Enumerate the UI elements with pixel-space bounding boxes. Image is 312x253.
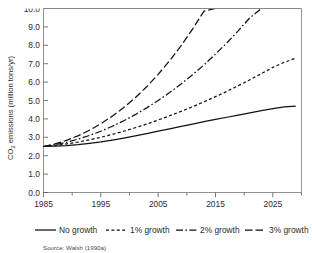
legend-label: 3% growth [269, 225, 309, 235]
y-axis-title-prefix: CO [6, 149, 15, 160]
x-axis-tick-labels: 1985 1995 2005 2015 2025 [34, 199, 282, 209]
y-tick-label: 5.0 [28, 96, 40, 106]
y-tick-label: 6.0 [28, 77, 40, 87]
y-tick-label: 1.0 [28, 169, 40, 179]
x-tick-label: 1995 [91, 199, 110, 209]
x-tick-label: 2025 [263, 199, 282, 209]
co2-emissions-figure: 10.0 9.0 8.0 7.0 6.0 5.0 4.0 3.0 2.0 1.0… [0, 0, 312, 253]
legend-label: No growth [59, 225, 98, 235]
legend-item-2pct[interactable]: 2% growth [176, 225, 240, 235]
y-tick-label: 4.0 [28, 114, 40, 124]
y-tick-label: 7.0 [28, 59, 40, 69]
x-tick-label: 1985 [34, 199, 53, 209]
y-axis-title-suffix: emissions (million tons/yr) [6, 55, 15, 145]
y-axis-tick-labels: 10.0 9.0 8.0 7.0 6.0 5.0 4.0 3.0 2.0 1.0… [24, 4, 41, 198]
y-tick-label: 3.0 [28, 132, 40, 142]
legend-item-1pct[interactable]: 1% growth [106, 225, 170, 235]
x-tick-label: 2015 [206, 199, 225, 209]
chart-legend: No growth 1% growth 2% growth 3% growth [35, 225, 309, 235]
svg-text:CO2 emissions (million tons/yr: CO2 emissions (million tons/yr) [6, 55, 16, 160]
y-tick-label: 2.0 [28, 151, 40, 161]
y-axis: 10.0 9.0 8.0 7.0 6.0 5.0 4.0 3.0 2.0 1.0… [6, 4, 48, 198]
legend-item-3pct[interactable]: 3% growth [245, 225, 309, 235]
y-tick-label: 9.0 [28, 22, 40, 32]
x-axis: 1985 1995 2005 2015 2025 [34, 193, 301, 209]
co2-emissions-line-chart: 10.0 9.0 8.0 7.0 6.0 5.0 4.0 3.0 2.0 1.0… [0, 0, 312, 253]
y-tick-label: 8.0 [28, 40, 40, 50]
plot-area-background [44, 9, 302, 193]
source-caption: Source: Walsh (1990a) [43, 244, 106, 251]
legend-item-no-growth[interactable]: No growth [35, 225, 98, 235]
x-axis-ticks [44, 193, 302, 198]
y-tick-label: 0.0 [28, 188, 40, 198]
legend-label: 1% growth [130, 225, 170, 235]
top-mask [0, 0, 312, 9]
legend-label: 2% growth [200, 225, 240, 235]
y-axis-title: CO2 emissions (million tons/yr) [6, 55, 16, 160]
x-tick-label: 2005 [149, 199, 168, 209]
